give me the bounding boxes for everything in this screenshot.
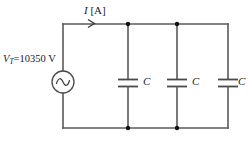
junction-dot-bottom-1 xyxy=(126,126,130,130)
capacitor-branch-1 xyxy=(118,24,138,128)
capacitor-1-label: C xyxy=(143,76,150,87)
current-unit: [A] xyxy=(90,4,105,16)
ac-source-icon xyxy=(52,71,74,93)
capacitor-2-label: C xyxy=(192,76,199,87)
capacitor-branch-3 xyxy=(218,24,238,128)
source-voltage-value: =10350 V xyxy=(14,53,56,64)
circuit-schematic-canvas xyxy=(0,0,249,146)
capacitor-branch-2 xyxy=(167,24,187,128)
current-label: I [A] xyxy=(84,5,106,16)
circuit-diagram-figure: I [A] VT=10350 V C C C xyxy=(0,0,249,146)
junction-dot-top-1 xyxy=(126,22,130,26)
junction-dot-bottom-2 xyxy=(175,126,179,130)
junction-dot-top-2 xyxy=(175,22,179,26)
source-voltage-label: VT=10350 V xyxy=(3,54,56,65)
capacitor-3-label: C xyxy=(238,76,245,87)
